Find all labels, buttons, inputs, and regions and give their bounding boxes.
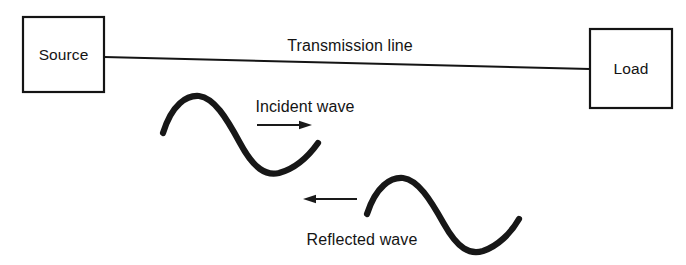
diagram-canvas: Source Load Transmission line Incident w… <box>0 0 686 265</box>
reflected-wave-label: Reflected wave <box>307 231 418 248</box>
incident-arrow-head <box>299 121 312 129</box>
reflected-arrow-head <box>303 195 316 203</box>
transmission-line-diagram: Source Load Transmission line Incident w… <box>0 0 686 265</box>
source-block-label: Source <box>39 46 89 63</box>
load-block-label: Load <box>614 60 649 77</box>
incident-wave-arrow <box>257 121 312 129</box>
incident-wave-label: Incident wave <box>255 98 354 115</box>
transmission-line-label: Transmission line <box>287 37 413 54</box>
reflected-wave-arrow <box>303 195 357 203</box>
transmission-line-connector <box>104 57 590 69</box>
